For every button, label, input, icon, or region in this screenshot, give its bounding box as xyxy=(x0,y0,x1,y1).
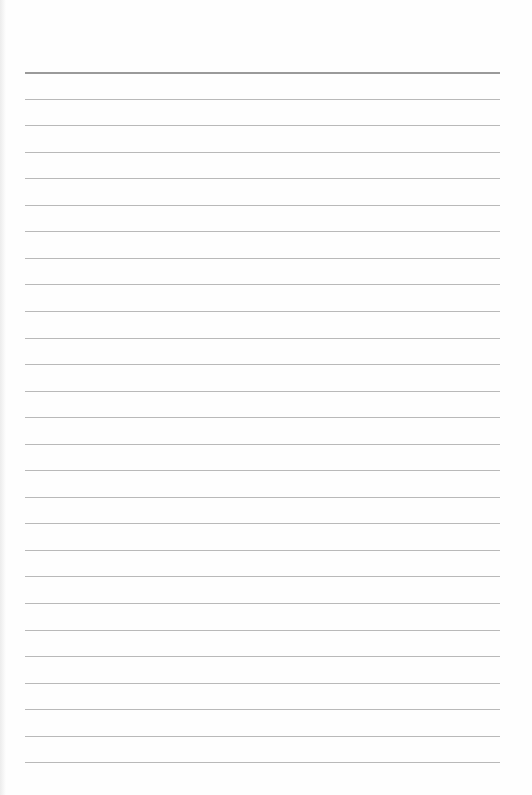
rule-line xyxy=(25,576,500,577)
rule-line xyxy=(25,709,500,710)
rule-line xyxy=(25,152,500,153)
rule-line xyxy=(25,338,500,339)
rule-line xyxy=(25,762,500,763)
rule-line xyxy=(25,656,500,657)
rule-line xyxy=(25,178,500,179)
rule-line xyxy=(25,364,500,365)
rule-line xyxy=(25,603,500,604)
rule-line xyxy=(25,284,500,285)
lined-paper-page xyxy=(0,0,532,795)
rule-line xyxy=(25,736,500,737)
rule-line xyxy=(25,523,500,524)
rule-line xyxy=(25,550,500,551)
rule-line xyxy=(25,497,500,498)
rule-line xyxy=(25,99,500,100)
rule-line xyxy=(25,683,500,684)
rule-line xyxy=(25,444,500,445)
rule-line xyxy=(25,258,500,259)
paper-edge-shadow xyxy=(0,0,6,795)
rule-line xyxy=(25,231,500,232)
rule-line xyxy=(25,470,500,471)
rule-line xyxy=(25,311,500,312)
rule-line xyxy=(25,391,500,392)
rule-line xyxy=(25,125,500,126)
header-rule-line xyxy=(25,72,500,74)
rule-line xyxy=(25,205,500,206)
rule-line xyxy=(25,417,500,418)
rule-line xyxy=(25,630,500,631)
